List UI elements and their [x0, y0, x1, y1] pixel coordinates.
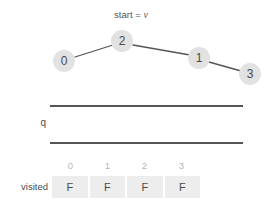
graph-edges: [0, 0, 274, 96]
visited-index-1: 1: [89, 158, 126, 174]
queue-section: q: [0, 100, 274, 148]
graph-node-0[interactable]: 0: [53, 50, 75, 72]
graph-section: start = v 0213: [0, 0, 274, 96]
graph-node-2[interactable]: 2: [111, 30, 133, 52]
queue-label: q: [30, 117, 46, 128]
visited-index-row: 0123: [52, 158, 200, 174]
visited-cell-2[interactable]: F: [127, 176, 163, 198]
graph-edge-0-2: [75, 45, 113, 57]
visited-cell-3[interactable]: F: [165, 176, 201, 198]
visited-cell-row: FFFF: [52, 176, 200, 198]
graph-node-1[interactable]: 1: [188, 47, 210, 69]
visited-index-0: 0: [52, 158, 89, 174]
visited-index-3: 3: [163, 158, 200, 174]
queue-top-rail: [50, 105, 243, 107]
visited-label: visited: [8, 181, 48, 192]
queue-bottom-rail: [50, 142, 243, 144]
graph-node-3[interactable]: 3: [239, 63, 261, 85]
visited-cell-0[interactable]: F: [52, 176, 88, 198]
graph-edge-1-3: [209, 62, 241, 71]
visited-cell-1[interactable]: F: [90, 176, 126, 198]
queue-contents: [50, 108, 243, 141]
visited-array-section: visited 0123 FFFF: [0, 158, 274, 203]
visited-index-2: 2: [126, 158, 163, 174]
diagram-canvas: start = v 0213 q visited 0123 FFFF: [0, 0, 274, 218]
graph-edge-2-1: [133, 45, 190, 55]
